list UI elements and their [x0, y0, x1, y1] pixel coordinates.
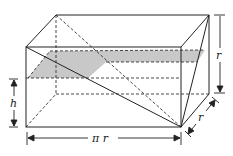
h-label: h — [10, 97, 17, 110]
pi-r-label: π r — [91, 132, 109, 145]
prism-diagram: h r π r r — [0, 0, 233, 156]
r-vertical-label: r — [216, 49, 222, 62]
shaded-cross-section — [28, 50, 205, 78]
r-depth-label: r — [198, 111, 204, 124]
